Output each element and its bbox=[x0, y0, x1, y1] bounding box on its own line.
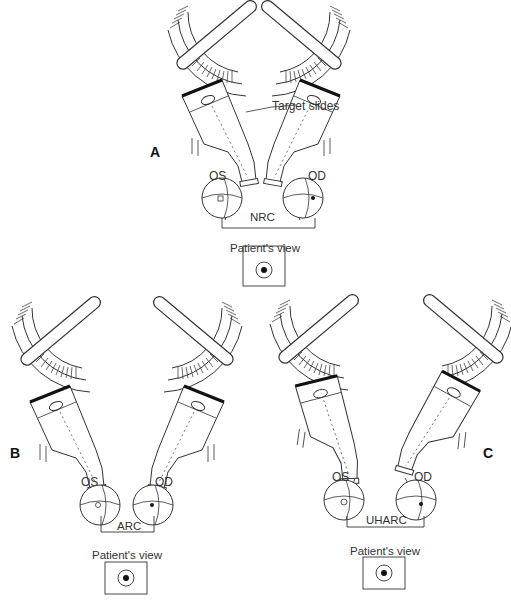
od-label-a: OD bbox=[308, 169, 326, 183]
eye-os-c bbox=[324, 480, 364, 520]
od-label-b: OD bbox=[155, 475, 173, 489]
target-slides-label: Target slides bbox=[272, 99, 339, 113]
correspondence-label-c: UHARC bbox=[366, 514, 407, 526]
eye-od-a bbox=[283, 178, 323, 218]
patients-view-label-b: Patient's view bbox=[92, 549, 162, 561]
patients-view-label-c: Patient's view bbox=[350, 545, 420, 557]
correspondence-label-a: NRC bbox=[250, 211, 275, 223]
os-label-a: OS bbox=[209, 169, 226, 183]
os-label-c: OS bbox=[332, 470, 349, 484]
figure-canvas bbox=[0, 0, 511, 602]
panel-letter-c: C bbox=[483, 445, 493, 461]
os-label-b: OS bbox=[81, 475, 98, 489]
correspondence-label-b: ARC bbox=[117, 520, 141, 532]
panel-letter-b: B bbox=[10, 445, 20, 461]
od-label-c: OD bbox=[414, 470, 432, 484]
panel-letter-a: A bbox=[150, 144, 160, 160]
patients-view-label-a: Patient's view bbox=[230, 242, 300, 254]
eye-os-a bbox=[202, 178, 242, 218]
eye-os-b bbox=[80, 485, 120, 525]
